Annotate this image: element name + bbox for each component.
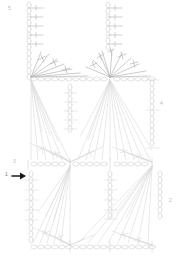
crochet-chart-page: 5 4 3 1 2: [0, 0, 181, 265]
crochet-chart-diagram: [0, 0, 181, 265]
chain-col-right-lower: [158, 171, 162, 219]
chain-row-neckline: [31, 77, 155, 81]
left-strap-chain: [27, 2, 31, 80]
chain-col-left-lower: [29, 171, 33, 243]
label-step-2: 2: [169, 198, 172, 203]
label-step-4: 4: [160, 101, 163, 106]
label-step-1: 1: [5, 172, 8, 177]
chain-row-middle: [31, 162, 148, 166]
fan-mid-left: [30, 143, 102, 162]
chain-row-bottom: [31, 245, 155, 249]
chain-row-bottom-ticks: [70, 241, 152, 252]
chain-col-center-upper: [68, 84, 72, 132]
fan-lower-left: [33, 166, 70, 244]
fan-neckline-right: [86, 48, 150, 77]
fan-neckline-left: [31, 52, 88, 77]
chain-row-middle-ticks: [28, 158, 152, 170]
chain-col-right-edge: [150, 80, 154, 146]
fan-body-left: [31, 80, 70, 162]
start-direction-arrow: [12, 173, 26, 180]
label-step-5: 5: [8, 6, 11, 11]
chain-col-center-lower: [108, 171, 112, 219]
fan-bottom-left: [34, 228, 94, 245]
chain-col-left-lower-marks: [25, 180, 38, 220]
fan-lower-right: [78, 166, 152, 243]
chain-col-center-upper-marks: [64, 93, 77, 129]
chain-col-right-edge-marks: [146, 80, 159, 148]
label-step-3: 3: [13, 159, 16, 164]
